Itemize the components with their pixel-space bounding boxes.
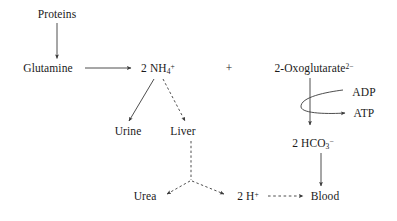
node-protons: 2 H+ [237, 190, 259, 202]
edge-adp-to-atp [301, 90, 345, 113]
plus-operator: + [226, 62, 233, 74]
node-blood: Blood [311, 190, 340, 202]
edge-branch-to-urea [167, 181, 190, 194]
edge-branch-to-protons [192, 181, 224, 194]
node-adp: ADP [352, 86, 375, 98]
arrow-layer [0, 0, 397, 221]
node-urea: Urea [134, 190, 157, 202]
node-atp: ATP [354, 107, 375, 119]
pathway-diagram: Proteins Glutamine 2 NH4+ 2-Oxoglutarate… [0, 0, 397, 221]
node-urine: Urine [115, 125, 142, 137]
node-oxoglutarate: 2-Oxoglutarate2− [274, 62, 353, 74]
edge-ammonium-to-liver [163, 79, 185, 121]
edge-ammonium-to-urine [129, 79, 154, 121]
node-proteins: Proteins [38, 8, 77, 20]
node-liver: Liver [170, 125, 195, 137]
node-glutamine: Glutamine [23, 62, 72, 74]
node-bicarbonate: 2 HCO3− [292, 137, 334, 149]
node-ammonium: 2 NH4+ [141, 62, 175, 74]
